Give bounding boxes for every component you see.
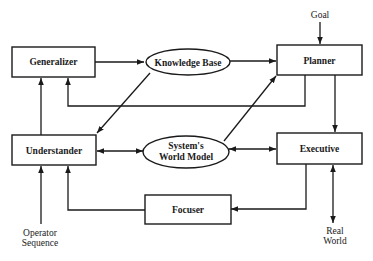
edge-world-model-to-planner — [224, 76, 276, 141]
node-knowledge-base: Knowledge Base — [146, 49, 230, 75]
node-planner: Planner — [277, 45, 362, 75]
understander-label: Understander — [26, 146, 83, 156]
node-world-model: System's World Model — [143, 136, 229, 168]
real-world-label-line1: Real — [326, 226, 344, 236]
node-understander: Understander — [12, 135, 96, 165]
world-model-label-line1: System's — [168, 141, 204, 151]
focuser-label: Focuser — [172, 205, 205, 215]
edge-focuser-to-understander — [68, 166, 145, 210]
edge-planner-to-generalizer — [68, 75, 305, 106]
operator-sequence-label-line1: Operator — [23, 228, 58, 238]
executive-label: Executive — [300, 144, 340, 154]
node-executive: Executive — [277, 133, 362, 164]
node-focuser: Focuser — [145, 195, 231, 224]
goal-label: Goal — [311, 10, 330, 20]
node-generalizer: Generalizer — [12, 47, 95, 77]
world-model-label-line2: World Model — [159, 152, 213, 162]
knowledge-base-label: Knowledge Base — [155, 58, 222, 68]
architecture-diagram: Generalizer Knowledge Base Planner Under… — [0, 0, 373, 261]
generalizer-label: Generalizer — [29, 57, 78, 67]
edge-executive-to-focuser — [231, 164, 306, 209]
real-world-label-line2: World — [323, 236, 347, 246]
operator-sequence-label-line2: Sequence — [22, 238, 58, 248]
planner-label: Planner — [303, 56, 336, 66]
edge-knowledge-base-to-understander — [97, 73, 150, 133]
